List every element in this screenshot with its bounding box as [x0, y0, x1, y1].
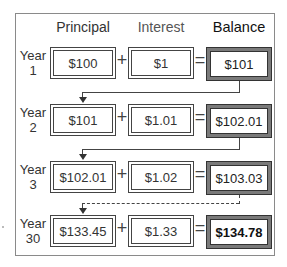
arrow-down-icon [79, 154, 87, 160]
balance-value: $103.03 [210, 165, 268, 191]
interest-box-1: $1 [128, 47, 194, 79]
balance-value: $134.78 [210, 219, 268, 245]
principal-box-1: $100 [50, 47, 116, 79]
principal-value: $133.45 [53, 218, 113, 244]
header-principal: Principal [50, 19, 116, 35]
dashed-connector [82, 203, 239, 204]
principal-value: $100 [53, 50, 113, 76]
year-number: 1 [17, 63, 49, 78]
year-word: Year [17, 105, 49, 120]
connector-line [82, 92, 240, 93]
interest-box-3: $1.02 [128, 161, 194, 193]
interest-box-2: $1.01 [128, 104, 194, 136]
plus-sign: + [116, 218, 128, 239]
interest-value: $1.01 [131, 107, 191, 133]
equals-sign: = [194, 218, 206, 239]
year-label-30: Year 30 [17, 216, 49, 246]
connector-line [82, 149, 240, 150]
year-label-3: Year 3 [17, 162, 49, 192]
year-label-2: Year 2 [17, 105, 49, 135]
year-word: Year [17, 216, 49, 231]
plus-sign: + [116, 107, 128, 128]
arrow-down-icon [79, 208, 87, 214]
header-interest: Interest [128, 19, 194, 35]
stray-mark [2, 226, 4, 228]
balance-box-2: $102.01 [206, 104, 272, 138]
principal-value: $102.01 [53, 164, 113, 190]
year-number: 2 [17, 120, 49, 135]
year-label-1: Year 1 [17, 48, 49, 78]
principal-box-30: $133.45 [50, 215, 116, 247]
plus-sign: + [116, 164, 128, 185]
balance-box-1: $101 [206, 47, 272, 81]
balance-value: $101 [210, 51, 268, 77]
year-word: Year [17, 162, 49, 177]
principal-value: $101 [53, 107, 113, 133]
interest-value: $1.33 [131, 218, 191, 244]
equals-sign: = [194, 107, 206, 128]
interest-box-30: $1.33 [128, 215, 194, 247]
balance-box-30: $134.78 [206, 215, 272, 249]
principal-box-3: $102.01 [50, 161, 116, 193]
header-balance: Balance [206, 19, 272, 35]
principal-box-2: $101 [50, 104, 116, 136]
balance-box-3: $103.03 [206, 161, 272, 195]
equals-sign: = [194, 50, 206, 71]
year-number: 30 [17, 231, 49, 246]
year-number: 3 [17, 177, 49, 192]
interest-value: $1.02 [131, 164, 191, 190]
dashed-connector [239, 195, 240, 204]
arrow-down-icon [79, 97, 87, 103]
balance-value: $102.01 [210, 108, 268, 134]
interest-value: $1 [131, 50, 191, 76]
year-word: Year [17, 48, 49, 63]
equals-sign: = [194, 164, 206, 185]
plus-sign: + [116, 50, 128, 71]
